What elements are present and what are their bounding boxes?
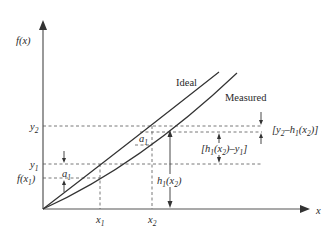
fx1-label: f(x1) [17,173,36,187]
ideal-curve [43,72,219,209]
x2-label: x2 [147,214,157,228]
y-axis-arrow-icon [39,20,47,30]
h1x2-dimension: h1(x2) [155,130,195,208]
arrow-up-icon [62,180,66,185]
y2-minus-h1x2-label: [y2–h1(x2)] [272,124,318,138]
arrow-down-icon [62,158,66,163]
measured-label: Measured [225,92,267,103]
ideal-label: Ideal [176,77,197,88]
y1-label: y1 [29,159,38,173]
arrow-up-icon [259,133,263,138]
a1-left-dimension: a1 [62,151,71,192]
h1x2-minus-y1-dimension: [h1(x2)–y1] [200,133,252,163]
y2-minus-h1x2-dimension: [y2–h1(x2)] [259,112,318,144]
a1-left-label: a1 [62,168,71,182]
x1-label: x1 [95,214,104,228]
arrow-down-icon [217,157,221,163]
a1-mid-label: a1 [139,133,148,147]
arrow-down-icon [168,201,173,208]
y-axis-label: f(x) [16,35,31,47]
diagram-canvas: f(x) x Ideal Measured y2 y1 f(x1) x1 x2 … [0,0,335,237]
reference-lines [43,126,262,209]
y2-label: y2 [29,121,39,135]
x-axis-arrow-icon [300,205,310,213]
arrow-up-icon [217,133,221,139]
arrow-down-icon [259,120,263,125]
x-axis-label: x [315,205,321,216]
arrow-up-icon [168,130,173,137]
